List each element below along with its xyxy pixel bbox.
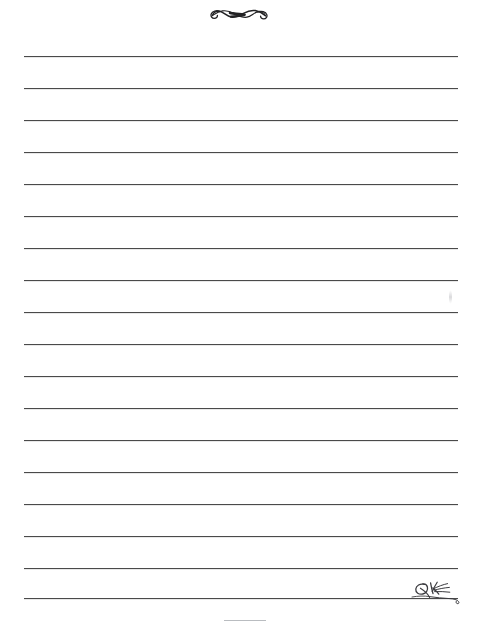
ruled-line [24,408,458,409]
ruled-line [24,88,458,89]
paper-smudge [449,290,452,304]
ruled-line [24,184,458,185]
faint-footer-tick [224,620,266,621]
ruled-line [24,568,458,569]
stationery-page [0,0,477,623]
ruled-line [24,312,458,313]
ruled-line [24,56,458,57]
ruled-lines-group [0,0,477,623]
ruled-line [24,216,458,217]
ruled-line [24,472,458,473]
ruled-line [24,280,458,281]
ruled-line [24,376,458,377]
ruled-line [24,120,458,121]
ruled-line [24,536,458,537]
ruled-line [24,248,458,249]
ruled-line [24,504,458,505]
ruled-line [24,344,458,345]
ruled-line [24,598,458,599]
ruled-line [24,440,458,441]
ruled-line [24,152,458,153]
